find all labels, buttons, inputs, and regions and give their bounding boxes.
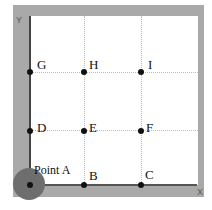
- point-f-label: F: [146, 121, 153, 134]
- grid-line-horizontal: [30, 72, 198, 73]
- point-c[interactable]: [138, 182, 144, 188]
- point-d[interactable]: [27, 128, 33, 134]
- point-c-label: C: [145, 168, 154, 181]
- point-b-label: B: [89, 169, 98, 182]
- point-g[interactable]: [27, 69, 33, 75]
- point-b[interactable]: [81, 182, 87, 188]
- grid-line-vertical: [84, 16, 85, 184]
- y-axis-label: Y: [16, 15, 22, 25]
- point-g-label: G: [37, 58, 46, 71]
- point-f[interactable]: [138, 128, 144, 134]
- point-i[interactable]: [138, 69, 144, 75]
- point-i-label: I: [148, 58, 152, 71]
- point-h-label: H: [89, 58, 98, 71]
- point-e[interactable]: [81, 128, 87, 134]
- grid-line-horizontal: [30, 130, 198, 131]
- point-h[interactable]: [81, 69, 87, 75]
- point-d-label: D: [37, 121, 46, 134]
- x-axis: [29, 184, 197, 186]
- point-a[interactable]: [27, 182, 33, 188]
- x-axis-label: X: [197, 187, 203, 197]
- point-e-label: E: [89, 121, 97, 134]
- grid-line-vertical: [141, 16, 142, 184]
- point-a-label: Point A: [34, 164, 70, 177]
- grid-field: [30, 16, 198, 185]
- y-axis: [29, 16, 31, 186]
